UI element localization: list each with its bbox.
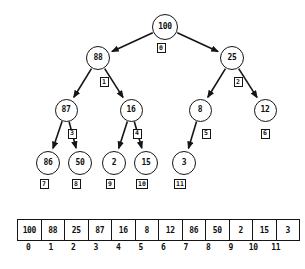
array-index-label: 5 <box>130 241 153 255</box>
array-cell: 3 <box>276 220 300 241</box>
table-row: 1008825871681286502153 <box>18 220 300 241</box>
heap-node: 2 <box>102 151 126 175</box>
heap-node: 3 <box>172 151 196 175</box>
array-index-label: 7 <box>175 241 198 255</box>
array-cell: 86 <box>182 220 206 241</box>
array-cell: 15 <box>253 220 277 241</box>
array-cell: 2 <box>229 220 253 241</box>
array-index-label: 3 <box>85 241 108 255</box>
heap-node: 100 <box>152 14 178 40</box>
array-index-label: 10 <box>242 241 265 255</box>
array-cell: 16 <box>112 220 136 241</box>
array-index-label: 0 <box>17 241 40 255</box>
array-index-row: 01234567891011 <box>17 241 287 255</box>
array-cell: 50 <box>206 220 230 241</box>
array-index-label: 11 <box>265 241 288 255</box>
heap-edge <box>119 121 128 148</box>
array-cell: 12 <box>159 220 183 241</box>
array-cell: 8 <box>135 220 159 241</box>
heap-node: 12 <box>254 99 277 122</box>
heap-node-index-badge: 6 <box>261 129 270 139</box>
heap-edge <box>188 121 196 148</box>
array-cell: 87 <box>88 220 112 241</box>
heap-node: 86 <box>36 151 60 175</box>
heap-node-index-badge: 8 <box>72 179 81 189</box>
array-table: 1008825871681286502153 <box>17 219 300 241</box>
heap-edge <box>177 33 218 52</box>
heap-node: 88 <box>86 46 110 70</box>
heap-edge <box>53 121 62 148</box>
array-cell: 25 <box>65 220 89 241</box>
heap-node-index-badge: 7 <box>40 179 49 189</box>
array-index-label: 4 <box>107 241 130 255</box>
heap-edge <box>208 69 226 98</box>
heap-node: 87 <box>55 99 78 122</box>
array-index-label: 8 <box>197 241 220 255</box>
heap-node: 8 <box>189 99 212 122</box>
heap-edge <box>74 69 92 98</box>
array-cell: 100 <box>18 220 42 241</box>
heap-node-index-badge: 4 <box>133 129 142 139</box>
heap-node: 16 <box>120 99 143 122</box>
heap-node: 15 <box>134 151 158 175</box>
heap-node-index-badge: 11 <box>174 179 186 189</box>
array-index-label: 1 <box>40 241 63 255</box>
heap-node: 25 <box>220 46 244 70</box>
heap-node-index-badge: 1 <box>100 77 109 87</box>
heap-tree-diagram: 100088125287316485126867508291510311 <box>0 0 305 200</box>
heap-node-index-badge: 0 <box>157 43 166 53</box>
heap-node-index-badge: 10 <box>136 179 148 189</box>
heap-node-index-badge: 5 <box>202 129 211 139</box>
heap-node-index-badge: 2 <box>234 77 243 87</box>
array-index-label: 9 <box>220 241 243 255</box>
array-representation: 1008825871681286502153 01234567891011 <box>0 205 305 269</box>
array-index-label: 6 <box>152 241 175 255</box>
heap-edge <box>112 33 153 52</box>
heap-node-index-badge: 3 <box>68 129 77 139</box>
array-index-label: 2 <box>62 241 85 255</box>
array-cell: 88 <box>41 220 65 241</box>
heap-node-index-badge: 9 <box>106 179 115 189</box>
heap-node: 50 <box>68 151 92 175</box>
